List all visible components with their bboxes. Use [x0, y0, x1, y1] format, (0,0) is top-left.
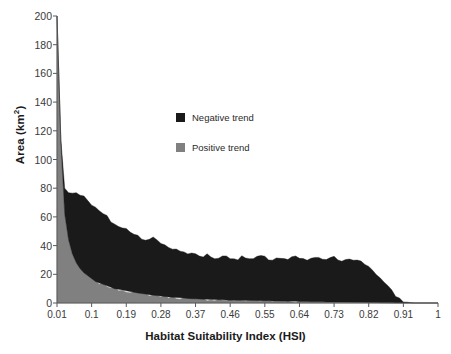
legend-label-positive-trend: Positive trend [192, 142, 250, 153]
legend-label-negative-trend: Negative trend [192, 112, 254, 123]
x-tick-1: 1 [418, 309, 451, 320]
legend-item-positive-trend: Positive trend [176, 142, 254, 153]
x-axis-title: Habitat Suitability Index (HSI) [0, 330, 451, 342]
legend-item-negative-trend: Negative trend [176, 112, 254, 123]
legend-swatch-positive-trend [176, 143, 185, 152]
plot-area [0, 0, 451, 354]
legend-swatch-negative-trend [176, 113, 185, 122]
chart-legend: Negative trend Positive trend [176, 112, 254, 172]
chart-container: Area (km2) 020406080100120140160180200 0… [0, 0, 451, 354]
